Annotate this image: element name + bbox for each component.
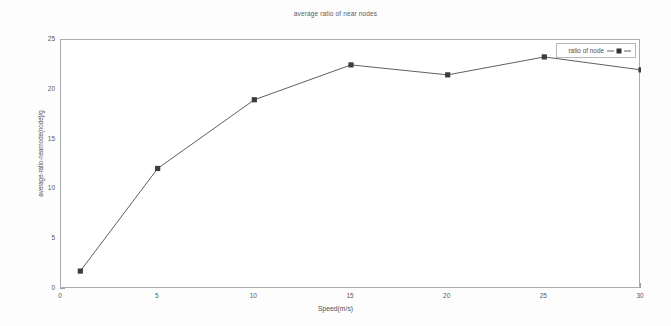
data-point <box>542 54 547 59</box>
y-tick-label: 15 <box>40 135 55 142</box>
legend: ratio of node <box>556 43 636 58</box>
x-tick-label: 0 <box>50 292 70 299</box>
y-tick-label: 20 <box>40 85 55 92</box>
y-tick-label: 0 <box>40 284 55 291</box>
plot-area: ratio of node <box>60 39 640 288</box>
x-tick-label: 25 <box>533 292 553 299</box>
y-axis-title: average-ratio-nearnode(node)/g <box>37 84 44 224</box>
legend-line-sample-icon <box>607 47 631 55</box>
legend-label-ratio-of-node: ratio of node <box>568 47 604 54</box>
chart-figure: average ratio of near nodes average-rati… <box>0 0 671 326</box>
x-axis-title: Speed(m/s) <box>0 305 671 312</box>
data-point <box>348 62 353 67</box>
y-tick-label: 10 <box>40 184 55 191</box>
x-tick-label: 10 <box>243 292 263 299</box>
y-tick-label: 5 <box>40 234 55 241</box>
series-markers-ratio-of-node <box>78 54 641 273</box>
data-point <box>638 67 641 72</box>
y-tick-label: 25 <box>40 35 55 42</box>
data-series-layer <box>61 40 641 289</box>
data-point <box>252 97 257 102</box>
x-tick-label: 15 <box>340 292 360 299</box>
data-point <box>78 268 83 273</box>
series-line-ratio-of-node <box>80 57 641 271</box>
data-point <box>445 72 450 77</box>
x-tick-label: 5 <box>147 292 167 299</box>
data-point <box>155 166 160 171</box>
chart-title: average ratio of near nodes <box>0 10 671 17</box>
x-tick-label: 20 <box>437 292 457 299</box>
x-tick-label: 30 <box>630 292 650 299</box>
